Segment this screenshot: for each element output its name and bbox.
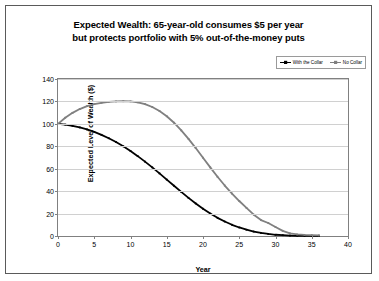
series-line	[58, 124, 319, 236]
series-marker	[289, 235, 291, 237]
series-marker	[188, 138, 190, 140]
series-marker	[282, 230, 284, 232]
chart-title-line-1: Expected Wealth: 65-year-old consumes $5…	[6, 18, 371, 31]
y-tick-mark	[55, 191, 58, 192]
y-tick-label: 40	[46, 188, 54, 195]
series-marker	[289, 232, 291, 234]
series-marker	[166, 115, 168, 117]
gridline	[58, 191, 348, 192]
chart-container: Expected Wealth: 65-year-old consumes $5…	[6, 6, 371, 273]
x-tick-mark	[167, 236, 168, 239]
gridline	[58, 214, 348, 215]
legend-label: With the Collar	[293, 60, 323, 65]
series-marker	[253, 231, 255, 233]
series-marker	[238, 200, 240, 202]
series-marker	[151, 106, 153, 108]
series-marker	[231, 193, 233, 195]
y-tick-label: 20	[46, 210, 54, 217]
series-marker	[224, 185, 226, 187]
legend-label: No Collar	[343, 60, 362, 65]
gridline	[58, 79, 348, 80]
legend-marker-icon	[280, 60, 291, 65]
gridline	[58, 124, 348, 125]
series-marker	[318, 234, 320, 236]
series-marker	[275, 226, 277, 228]
series-marker	[93, 103, 95, 105]
series-marker	[137, 155, 139, 157]
legend-item: With the Collar	[280, 60, 323, 65]
x-tick-mark	[239, 236, 240, 239]
gridline	[58, 146, 348, 147]
series-marker	[79, 108, 81, 110]
x-tick-mark	[276, 236, 277, 239]
x-tick-label: 25	[235, 241, 243, 248]
x-tick-label: 35	[308, 241, 316, 248]
y-tick-mark	[55, 146, 58, 147]
series-marker	[144, 103, 146, 105]
series-marker	[86, 129, 88, 131]
series-marker	[260, 219, 262, 221]
x-tick-label: 20	[199, 241, 207, 248]
series-marker	[115, 141, 117, 143]
series-marker	[202, 208, 204, 210]
series-marker	[224, 221, 226, 223]
series-marker	[93, 131, 95, 133]
chart-title-line-2: but protects portfolio with 5% out-of-th…	[6, 31, 371, 44]
series-marker	[79, 127, 81, 129]
series-marker	[202, 157, 204, 159]
series-marker	[282, 234, 284, 236]
series-marker	[231, 224, 233, 226]
y-tick-label: 60	[46, 165, 54, 172]
series-marker	[72, 125, 74, 127]
series-lines	[58, 79, 348, 236]
x-tick-label: 5	[92, 241, 96, 248]
y-tick-label: 80	[46, 143, 54, 150]
x-tick-mark	[312, 236, 313, 239]
series-marker	[296, 234, 298, 236]
series-marker	[159, 173, 161, 175]
y-tick-label: 140	[42, 76, 54, 83]
x-tick-label: 40	[344, 241, 352, 248]
y-tick-mark	[55, 124, 58, 125]
legend-marker-icon	[330, 60, 341, 65]
y-tick-mark	[55, 79, 58, 80]
x-axis-label: Year	[58, 265, 348, 274]
x-tick-label: 0	[56, 241, 60, 248]
series-marker	[86, 105, 88, 107]
chart-legend: With the CollarNo Collar	[276, 56, 366, 69]
chart-frame: Expected Wealth: 65-year-old consumes $5…	[5, 5, 372, 274]
y-tick-mark	[55, 101, 58, 102]
series-marker	[246, 229, 248, 231]
plot-area: Expected Level of Wealth ($) Year 020406…	[57, 78, 349, 237]
x-tick-mark	[203, 236, 204, 239]
series-marker	[304, 234, 306, 236]
x-tick-mark	[131, 236, 132, 239]
series-marker	[188, 197, 190, 199]
series-marker	[195, 203, 197, 205]
series-marker	[217, 217, 219, 219]
chart-title: Expected Wealth: 65-year-old consumes $5…	[6, 18, 371, 44]
series-marker	[267, 222, 269, 224]
series-marker	[101, 134, 103, 136]
series-marker	[260, 232, 262, 234]
series-marker	[173, 185, 175, 187]
series-marker	[267, 233, 269, 235]
series-marker	[159, 110, 161, 112]
series-marker	[180, 129, 182, 131]
gridline	[58, 169, 348, 170]
series-marker	[130, 150, 132, 152]
y-tick-mark	[55, 169, 58, 170]
series-marker	[166, 179, 168, 181]
series-marker	[72, 112, 74, 114]
gridline	[58, 101, 348, 102]
x-tick-label: 30	[272, 241, 280, 248]
x-tick-mark	[58, 236, 59, 239]
series-marker	[195, 147, 197, 149]
series-marker	[217, 176, 219, 178]
x-tick-mark	[94, 236, 95, 239]
y-tick-mark	[55, 214, 58, 215]
y-tick-label: 0	[50, 233, 54, 240]
series-marker	[238, 227, 240, 229]
x-tick-mark	[348, 236, 349, 239]
y-tick-label: 120	[42, 98, 54, 105]
